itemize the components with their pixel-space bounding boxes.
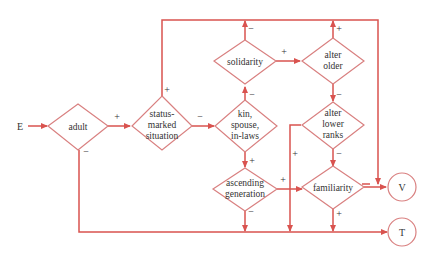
- sign-status-plus: +: [164, 84, 170, 95]
- label-familiarity: familiarity: [313, 183, 353, 193]
- sign-adult-plus: +: [114, 111, 120, 122]
- sign-older-plus: +: [336, 23, 342, 34]
- entry-label: E: [17, 121, 23, 132]
- label-terminal-v: V: [398, 182, 406, 193]
- label-status-1: status-: [150, 109, 175, 119]
- sign-lower-plus: +: [292, 148, 298, 159]
- sign-solidarity-plus: +: [281, 46, 287, 57]
- flowchart-diagram: E adult status- marked situation kin, sp…: [0, 0, 441, 258]
- sign-ascending-plus: +: [280, 174, 286, 185]
- sign-solidarity-minus: −: [248, 23, 254, 34]
- sign-ascending-minus: −: [248, 206, 254, 217]
- edge-status-v: [162, 20, 378, 184]
- label-ascending-1: ascending: [226, 178, 264, 188]
- label-lower-1: alter: [325, 108, 343, 118]
- label-status-3: situation: [146, 131, 179, 141]
- label-kin-2: spouse,: [231, 120, 259, 130]
- label-status-2: marked: [148, 120, 177, 130]
- label-lower-2: lower: [322, 119, 344, 129]
- sign-older-minus: −: [336, 89, 342, 100]
- label-lower-3: ranks: [323, 130, 344, 140]
- label-terminal-t: T: [399, 227, 405, 238]
- label-ascending-2: generation: [225, 189, 265, 199]
- sign-kin-minus: −: [249, 89, 255, 100]
- sign-adult-minus: −: [83, 146, 89, 157]
- label-kin-3: in-laws: [231, 131, 259, 141]
- sign-status-minus: −: [197, 111, 203, 122]
- label-kin-1: kin,: [238, 109, 253, 119]
- sign-lower-minus: −: [336, 148, 342, 159]
- label-adult: adult: [69, 122, 88, 132]
- edge-lower-t: [290, 125, 301, 231]
- sign-familiarity-plus: +: [336, 208, 342, 219]
- label-solidarity: solidarity: [227, 57, 263, 67]
- sign-kin-plus: +: [249, 155, 255, 166]
- label-older-1: alter: [325, 50, 343, 60]
- label-older-2: older: [323, 61, 343, 71]
